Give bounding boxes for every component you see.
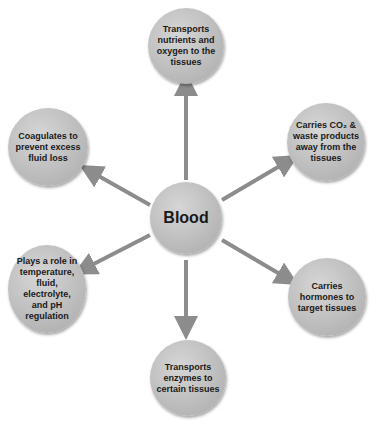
node-upper-left-label: Coagulates to prevent excess fluid loss <box>14 131 82 164</box>
node-top: Transports nutrients and oxygen to the t… <box>148 8 224 84</box>
arrow-to-lower-left <box>82 235 150 270</box>
node-lower-right: Carries hormones to target tissues <box>288 258 366 336</box>
node-upper-right-label: Carries CO₂ & waste products away from t… <box>293 120 359 164</box>
node-lower-left: Plays a role in temperature, fluid, elec… <box>8 245 86 333</box>
center-label: Blood <box>163 209 208 227</box>
node-center-blood: Blood <box>150 182 222 254</box>
node-bottom: Transports enzymes to certain tissues <box>150 340 226 416</box>
node-upper-left: Coagulates to prevent excess fluid loss <box>8 108 88 186</box>
node-lower-left-label: Plays a role in temperature, fluid, elec… <box>14 256 80 322</box>
arrow-to-lower-right <box>222 240 290 280</box>
node-bottom-label: Transports enzymes to certain tissues <box>156 362 220 395</box>
node-upper-right: Carries CO₂ & waste products away from t… <box>287 103 365 181</box>
arrow-to-upper-left <box>88 170 150 205</box>
node-lower-right-label: Carries hormones to target tissues <box>294 281 360 314</box>
node-top-label: Transports nutrients and oxygen to the t… <box>154 24 218 68</box>
arrow-to-upper-right <box>222 160 290 200</box>
